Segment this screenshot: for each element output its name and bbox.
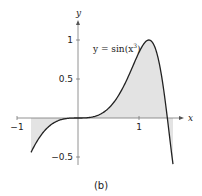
x-axis-arrow-icon xyxy=(179,116,184,120)
shaded-area xyxy=(31,40,173,164)
x-tick-label: −1 xyxy=(10,122,23,132)
function-label: y = sin(x3) xyxy=(92,42,141,54)
x-axis-label: x xyxy=(188,113,193,123)
y-axis-label: y xyxy=(75,8,82,18)
x-tick-label: 1 xyxy=(136,122,142,132)
figure-caption: (b) xyxy=(0,180,202,191)
y-tick-label: 0.5 xyxy=(59,74,73,84)
y-tick-label: −0.5 xyxy=(51,152,73,162)
y-axis-arrow-icon xyxy=(76,20,80,25)
y-tick-label: 1 xyxy=(67,35,73,45)
chart: −1110.5−0.5 x y y = sin(x3) xyxy=(0,0,202,180)
